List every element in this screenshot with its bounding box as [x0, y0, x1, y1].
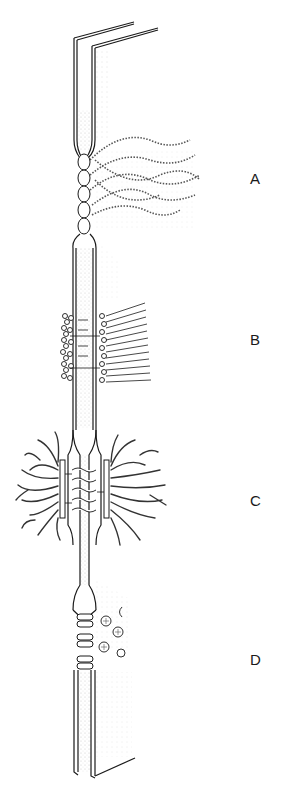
label-c: C [250, 492, 261, 509]
label-a: A [250, 170, 260, 187]
adherens-junction [61, 303, 152, 383]
cell-junction-illustration [0, 0, 291, 796]
desmosome [16, 430, 166, 545]
label-b: B [250, 331, 260, 348]
label-d: D [250, 651, 261, 668]
tight-junction-beads [78, 154, 90, 234]
